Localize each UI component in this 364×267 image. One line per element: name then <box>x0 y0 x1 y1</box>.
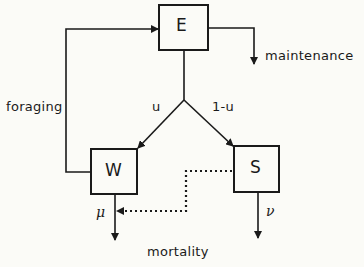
node-S-label: S <box>250 157 261 177</box>
u-label: u <box>152 99 161 114</box>
diagram-lines <box>0 0 364 267</box>
energy-allocation-diagram: E W S foraging maintenance u 1-u μ ν mor… <box>0 0 364 267</box>
nu-label: ν <box>266 203 275 219</box>
foraging-label: foraging <box>6 99 63 114</box>
foraging-arrow <box>66 29 158 172</box>
mortality-label: mortality <box>147 244 209 259</box>
maintenance-arrow <box>208 28 254 64</box>
node-E-label: E <box>176 15 187 35</box>
maintenance-label: maintenance <box>265 48 353 63</box>
u-arrow <box>138 100 184 148</box>
node-W-label: W <box>105 160 122 180</box>
one-minus-u-label: 1-u <box>212 99 234 114</box>
dotted-influence-arrow <box>117 171 232 211</box>
mu-label: μ <box>96 204 105 220</box>
